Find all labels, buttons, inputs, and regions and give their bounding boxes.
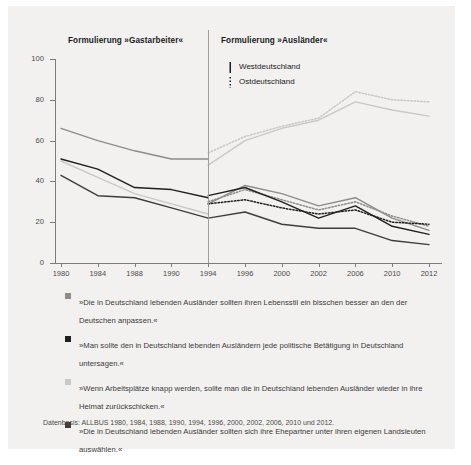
chart-line [61, 159, 208, 198]
x-tick-label: 1984 [81, 269, 115, 278]
x-tick-label: 1994 [191, 269, 225, 278]
key-east-label: Ostdeutschland [239, 77, 295, 86]
key-west-glyph [229, 62, 231, 73]
y-tick-label: 0 [18, 258, 44, 267]
x-tick-label: 2000 [265, 269, 299, 278]
legend-item-text: »Die in Deutschland lebenden Ausländer s… [79, 427, 426, 454]
region-key: Westdeutschland Ostdeutschland [225, 62, 345, 96]
chart-line [208, 102, 429, 165]
key-west-label: Westdeutschland [239, 62, 300, 71]
y-tick-label: 20 [18, 217, 44, 226]
figure-card: Formulierung »Gastarbeiter« Formulierung… [8, 6, 455, 449]
x-tick-label: 2002 [302, 269, 336, 278]
legend-bullet-icon [65, 379, 71, 385]
legend-item-text: »Die in Deutschland lebenden Ausländer s… [79, 298, 407, 325]
legend-item-text: »Man sollte den in Deutschland lebenden … [79, 341, 403, 368]
chart-line [208, 188, 429, 235]
legend-item: »Wenn Arbeitsplätze knapp werden, sollte… [65, 377, 445, 413]
x-tick-label: 1996 [228, 269, 262, 278]
legend-item-text: »Wenn Arbeitsplätze knapp werden, sollte… [79, 384, 422, 411]
panel-title-auslaender: Formulierung »Ausländer« [221, 36, 328, 45]
legend-bullet-icon [65, 336, 71, 342]
chart-line [208, 190, 429, 227]
panel-title-gastarbeiter: Formulierung »Gastarbeiter« [68, 36, 183, 45]
panel-divider [208, 30, 209, 263]
x-tick-label: 1990 [154, 269, 188, 278]
y-tick-label: 40 [18, 176, 44, 185]
x-axis-line [55, 263, 442, 264]
chart-line [61, 175, 208, 218]
y-tick-label: 100 [18, 54, 44, 63]
x-tick-label: 2010 [375, 269, 409, 278]
legend-item: »Man sollte den in Deutschland lebenden … [65, 334, 445, 370]
x-tick-label: 1988 [118, 269, 152, 278]
chart-line [208, 185, 429, 230]
key-east-glyph [229, 77, 231, 88]
legend-bullet-icon [65, 293, 71, 299]
statement-legend: »Die in Deutschland lebenden Ausländer s… [65, 291, 445, 463]
y-tick-label: 60 [18, 136, 44, 145]
chart-line [61, 128, 208, 159]
source-note: Datenbasis: ALLBUS 1980, 1984, 1988, 199… [43, 419, 334, 426]
x-tick-label: 2012 [412, 269, 446, 278]
y-tick-label: 80 [18, 95, 44, 104]
x-tick-label: 2006 [338, 269, 372, 278]
figure-page: Formulierung »Gastarbeiter« Formulierung… [0, 0, 471, 465]
legend-item: »Die in Deutschland lebenden Ausländer s… [65, 291, 445, 327]
x-tick-label: 1980 [44, 269, 78, 278]
